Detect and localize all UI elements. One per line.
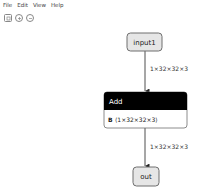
edge-input1-to-add: 1×32×32×3 (145, 50, 188, 91)
node-label: out (140, 173, 152, 181)
edge-add-to-out: 1×32×32×3 (145, 128, 188, 166)
node-title: Add (109, 98, 123, 106)
node-attr-name: B (108, 116, 113, 123)
node-add[interactable]: Add B ⟨1×32×32×3⟩ (104, 92, 187, 128)
node-attr-value: ⟨1×32×32×3⟩ (115, 116, 158, 123)
node-label: input1 (133, 39, 155, 47)
node-input1[interactable]: input1 (127, 33, 162, 51)
node-out[interactable]: out (133, 167, 159, 186)
graph-canvas: 1×32×32×3 1×32×32×3 input1 Add B ⟨1×32×3… (0, 0, 208, 191)
edge-shape-label: 1×32×32×3 (150, 143, 188, 150)
edge-shape-label: 1×32×32×3 (150, 65, 188, 72)
